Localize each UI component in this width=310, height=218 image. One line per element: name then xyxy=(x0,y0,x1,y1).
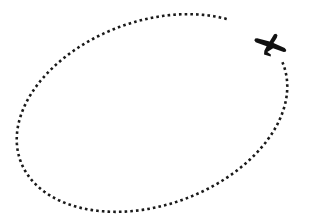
canvas-background xyxy=(0,0,310,218)
flight-path-canvas xyxy=(0,0,310,218)
flight-path-illustration xyxy=(0,0,310,218)
